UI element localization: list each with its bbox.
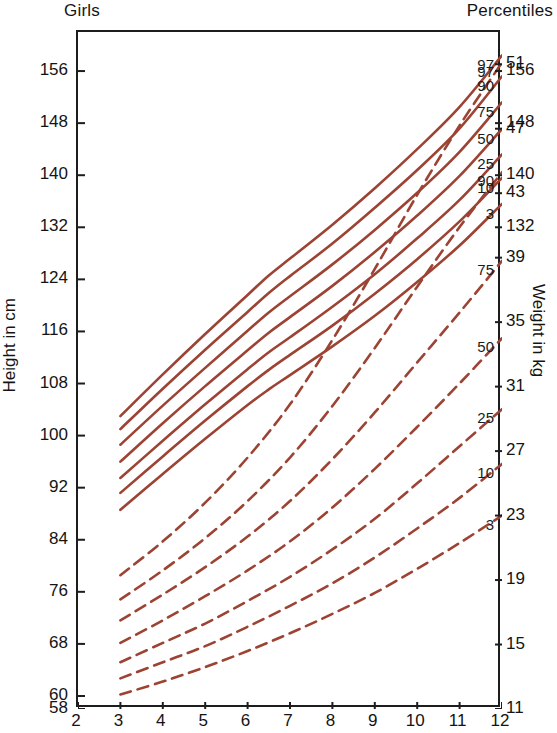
ytick-left-92: 92	[26, 477, 68, 494]
weight-curve-p10	[120, 464, 502, 678]
weight-curve-p3	[120, 516, 502, 695]
ytick-left-100: 100	[26, 425, 68, 442]
weight-percentile-label-3: 3	[486, 516, 494, 531]
weight-curve-p97	[120, 63, 502, 576]
curves-svg	[78, 32, 502, 709]
ytick-right-weight-15: 15	[506, 634, 525, 651]
height-percentile-label-25: 25	[477, 156, 494, 171]
height-percentile-label-3: 3	[486, 205, 494, 220]
ytick-right-weight-23: 23	[506, 505, 525, 522]
ytick-right-height-132: 132	[506, 217, 534, 234]
height-percentile-curves	[120, 55, 502, 509]
weight-percentile-label-10: 10	[477, 464, 494, 479]
ytick-left-140: 140	[26, 165, 68, 182]
ytick-right-weight-39: 39	[506, 247, 525, 264]
xtick-10: 10	[406, 712, 425, 729]
ytick-left-60: 60	[26, 685, 68, 702]
height-percentile-label-50: 50	[477, 130, 494, 145]
xtick-12: 12	[491, 712, 510, 729]
weight-percentile-label-25: 25	[477, 410, 494, 425]
ytick-left-116: 116	[26, 321, 68, 338]
ytick-left-84: 84	[26, 529, 68, 546]
ytick-left-108: 108	[26, 373, 68, 390]
ytick-left-76: 76	[26, 581, 68, 598]
weight-percentile-curves	[120, 63, 502, 695]
ytick-right-weight-19: 19	[506, 570, 525, 587]
ytick-right-height-140: 140	[506, 165, 534, 182]
chart-caption-left: Girls	[64, 1, 100, 21]
ytick-left-68: 68	[26, 633, 68, 650]
xtick-11: 11	[449, 712, 467, 729]
ytick-right-weight-35: 35	[506, 312, 525, 329]
height-curve-p3	[120, 204, 502, 510]
height-curve-p75	[120, 102, 502, 444]
ytick-left-132: 132	[26, 217, 68, 234]
ytick-right-height-148: 148	[506, 113, 534, 130]
ytick-left-156: 156	[26, 61, 68, 78]
growth-chart: Girls Percentiles Height in cm Weight in…	[0, 0, 557, 733]
xtick-6: 6	[241, 712, 250, 729]
plot-area	[76, 30, 500, 707]
xtick-7: 7	[283, 712, 292, 729]
xtick-8: 8	[326, 712, 335, 729]
ytick-right-weight-27: 27	[506, 441, 525, 458]
ytick-left-124: 124	[26, 269, 68, 286]
ytick-right-weight-43: 43	[506, 183, 525, 200]
height-curve-p90	[120, 76, 502, 429]
xtick-9: 9	[368, 712, 377, 729]
xtick-4: 4	[156, 712, 165, 729]
y-axis-title-height: Height in cm	[0, 298, 20, 392]
ytick-right-height-156: 156	[506, 61, 534, 78]
ytick-right-weight-31: 31	[506, 376, 525, 393]
ytick-left-148: 148	[26, 113, 68, 130]
height-percentile-label-75: 75	[477, 104, 494, 119]
height-curve-p10	[120, 178, 502, 493]
height-curve-p50	[120, 129, 502, 462]
weight-percentile-label-90: 90	[477, 173, 494, 188]
weight-percentile-label-75: 75	[477, 261, 494, 276]
xtick-3: 3	[114, 712, 123, 729]
chart-caption-right: Percentiles	[467, 1, 553, 21]
xtick-5: 5	[198, 712, 207, 729]
weight-curve-p50	[120, 338, 502, 643]
height-curve-p25	[120, 154, 502, 478]
weight-percentile-label-97: 97	[477, 63, 494, 78]
weight-percentile-label-50: 50	[477, 339, 494, 354]
y-axis-title-weight: Weight in kg	[528, 284, 548, 377]
height-percentile-label-90: 90	[477, 78, 494, 93]
weight-curve-p75	[120, 261, 502, 620]
xtick-2: 2	[71, 712, 80, 729]
